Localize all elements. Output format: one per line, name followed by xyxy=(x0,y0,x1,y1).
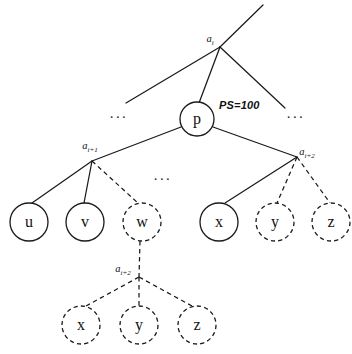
sub-anchor-label: ai+2 xyxy=(115,263,131,277)
node-w-label: w xyxy=(136,213,148,230)
edge-right-to-x xyxy=(225,157,297,203)
sub-anchor-edges xyxy=(86,277,192,306)
left-anchor-subscript: i+1 xyxy=(88,146,98,154)
edge-pivot-to-left-anchor xyxy=(92,127,181,161)
node-v[interactable]: v xyxy=(66,203,104,241)
ellipsis-right: ... xyxy=(287,105,305,121)
node-y-upper[interactable]: y xyxy=(256,203,294,241)
edge-root-left xyxy=(126,47,220,103)
node-z-lower-label: z xyxy=(193,316,200,333)
node-x-upper[interactable]: x xyxy=(200,203,238,241)
node-z-upper-label: z xyxy=(327,213,334,230)
edge-root-up xyxy=(220,5,263,47)
node-x-upper-label: x xyxy=(215,213,223,230)
node-p-label: p xyxy=(193,110,201,128)
edge-left-to-w xyxy=(92,161,139,204)
left-anchor-edges xyxy=(32,161,139,204)
node-y-lower-label: y xyxy=(135,316,143,334)
ellipsis-middle: ... xyxy=(154,167,172,183)
root-edges xyxy=(126,5,285,108)
node-z-lower[interactable]: z xyxy=(178,306,216,344)
node-u[interactable]: u xyxy=(10,203,48,241)
edge-right-to-z xyxy=(297,157,330,203)
root-anchor-label: ai xyxy=(206,33,213,47)
edge-sub-to-z xyxy=(139,277,192,306)
ps-annotation: PS=100 xyxy=(219,99,260,111)
tree-diagram: ai ... ... p PS=100 ai+1 ... ai+ xyxy=(0,0,352,354)
node-x-lower[interactable]: x xyxy=(62,306,100,344)
tree-svg: ai ... ... p PS=100 ai+1 ... ai+ xyxy=(0,0,352,354)
node-p[interactable]: p xyxy=(180,102,214,136)
edge-w-to-sub-anchor xyxy=(139,241,140,277)
sub-anchor-subscript: i+2 xyxy=(121,269,132,277)
edge-pivot-to-right-anchor xyxy=(213,127,297,157)
edge-left-to-u xyxy=(32,161,92,203)
node-w[interactable]: w xyxy=(123,203,161,241)
root-anchor-subscript: i xyxy=(212,39,214,47)
right-anchor-subscript: i+2 xyxy=(305,152,316,160)
node-v-label: v xyxy=(81,213,89,230)
node-y-lower[interactable]: y xyxy=(120,306,158,344)
node-y-upper-label: y xyxy=(271,213,279,231)
node-x-lower-label: x xyxy=(77,316,85,333)
edge-root-to-pivot xyxy=(199,47,220,103)
ellipsis-left: ... xyxy=(110,105,128,121)
left-anchor-label: ai+1 xyxy=(82,140,97,154)
right-anchor-label: ai+2 xyxy=(299,146,315,160)
edge-left-to-v xyxy=(84,161,92,203)
edge-sub-to-x xyxy=(86,277,139,306)
node-u-label: u xyxy=(25,213,33,230)
node-z-upper[interactable]: z xyxy=(312,203,350,241)
right-anchor-edges xyxy=(225,157,330,203)
